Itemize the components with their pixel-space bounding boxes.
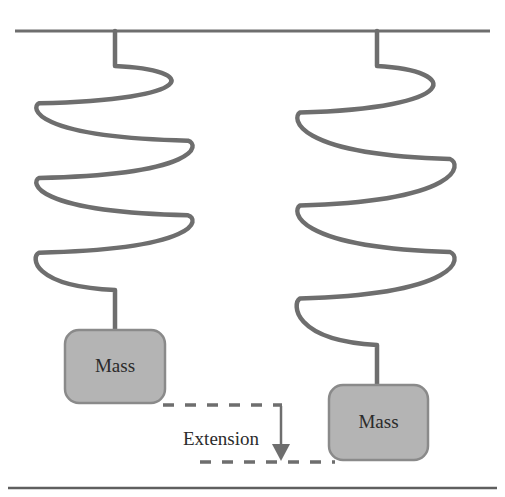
right-mass-label: Mass [358,411,398,432]
left-spring-group [36,31,193,330]
figure-canvas: Mass Mass Extension [0,0,505,497]
spring-extension-figure: Mass Mass Extension [0,0,505,497]
extension-arrow-head [272,444,290,461]
right-mass-group: Mass [329,385,428,460]
right-spring-coil [297,31,455,385]
left-mass-group: Mass [65,330,165,403]
left-spring-coil [36,31,193,330]
extension-annotation: Extension [163,405,335,462]
left-mass-label: Mass [95,355,135,376]
extension-label: Extension [183,428,259,449]
right-spring-group [297,31,455,385]
